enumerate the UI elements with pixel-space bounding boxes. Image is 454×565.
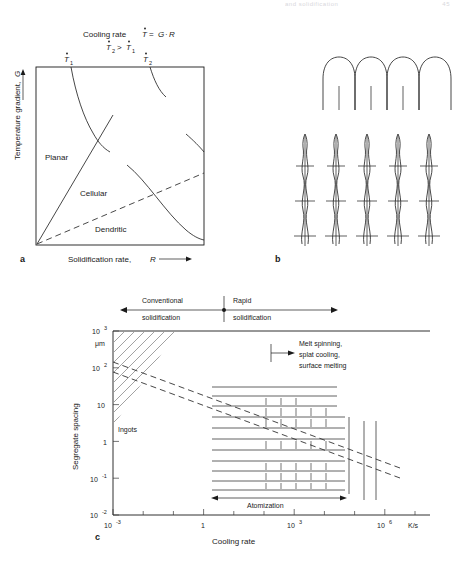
panel-a-curve-label-t1: T 1: [64, 53, 73, 66]
svg-text:2: 2: [104, 362, 107, 368]
panel-c: Conventional solidification Rapid solidi…: [71, 260, 430, 546]
chart-c-axes: [113, 331, 430, 515]
chart-c-x-ticks: 10 -3 1 10 3 10 6 K/s: [104, 509, 419, 529]
panel-b-cellular-structure: [323, 57, 451, 110]
svg-text:-1: -1: [102, 473, 107, 479]
chart-c-region-label-ingots: Ingots: [118, 426, 138, 434]
panel-a-cooling-rate-formula: T = G · R: [142, 28, 175, 39]
svg-text:10: 10: [90, 476, 98, 483]
svg-text:10: 10: [92, 328, 100, 335]
chart-c-y-tick-label-100: 10 2: [92, 362, 107, 372]
melt-spinning-line-2: splat cooling,: [299, 351, 340, 359]
chart-c-x-units: K/s: [408, 522, 419, 529]
svg-text:10: 10: [377, 522, 385, 529]
svg-text:T: T: [142, 30, 148, 39]
chart-c-atomization-vertical-ticks: [266, 398, 326, 489]
chart-c-x-axis-title: Cooling rate: [212, 537, 256, 546]
chart-c-x-tick-label-1e-3: 10 -3: [104, 519, 121, 529]
panel-a: Cooling rate T = G · R T 2 > T 1 T: [13, 28, 204, 264]
figure-root: and solidification 45 Cooling rate T = G…: [0, 0, 454, 565]
dendrite-column: [294, 134, 316, 246]
panel-a-region-label-planar: Planar: [45, 153, 68, 162]
panel-c-label: c: [95, 532, 100, 542]
chart-c-regime-conventional-line1: Conventional: [142, 297, 183, 304]
chart-c-regime-rapid-line2: solidification: [233, 314, 271, 321]
panel-a-y-axis-label: Temperature gradient,: [13, 82, 22, 160]
panel-a-cooling-rate-note: Cooling rate: [83, 30, 127, 39]
chart-c-regime-conventional-line2: solidification: [142, 314, 180, 321]
svg-text:G: G: [158, 30, 164, 39]
svg-text:3: 3: [299, 519, 302, 525]
panel-a-x-axis-symbol: R: [150, 255, 156, 264]
svg-text:=: =: [149, 30, 154, 39]
panel-b-label: b: [275, 254, 281, 264]
chart-c-y-tick-label-0-1: 10 -1: [90, 473, 107, 483]
svg-text:·: ·: [165, 30, 168, 39]
panel-a-label: a: [20, 254, 26, 264]
svg-text:3: 3: [104, 325, 107, 331]
panel-a-y-axis: Temperature gradient, G: [13, 71, 22, 160]
svg-text:2: 2: [112, 48, 115, 54]
svg-text:10: 10: [287, 522, 295, 529]
svg-text:10: 10: [104, 522, 112, 529]
svg-text:6: 6: [389, 519, 392, 525]
chart-c-y-ticks: 10 3 μm 10 2 10 1 10 -1 10 -2: [90, 325, 119, 519]
chart-c-atomization-span: Atomization: [211, 495, 347, 509]
svg-text:-2: -2: [102, 509, 107, 515]
chart-c-top-axis: Conventional solidification Rapid solidi…: [120, 296, 338, 322]
panel-b: b: [275, 57, 451, 264]
dendrite-column: [325, 134, 347, 246]
svg-text:1: 1: [132, 48, 135, 54]
panel-a-x-axis: Solidification rate, R: [68, 255, 192, 264]
panel-a-curve-t1: [71, 67, 110, 152]
panel-a-curve-right-upper: [186, 134, 204, 152]
dendrite-column: [418, 134, 440, 246]
panel-a-region-label-dendritic: Dendritic: [95, 225, 127, 234]
svg-text:10: 10: [92, 365, 100, 372]
chart-c-y-tick-label-1: 1: [103, 439, 107, 446]
chart-c-y-units: μm: [95, 340, 105, 348]
chart-c-annotation-melt-spinning: Melt spinning, splat cooling, surface me…: [271, 340, 347, 370]
svg-text:1: 1: [70, 60, 73, 66]
svg-text:R: R: [169, 30, 175, 39]
chart-c-y-tick-label-0-01: 10 -2: [90, 509, 107, 519]
chart-c-y-axis-title: Segregate spacing: [71, 403, 80, 470]
chart-c-y-tick-label-1000: 10 3: [92, 325, 107, 335]
melt-spinning-line-3: surface melting: [299, 362, 347, 370]
svg-text:2: 2: [149, 60, 152, 66]
svg-text:>: >: [117, 43, 122, 52]
chart-c-regime-rapid-line1: Rapid: [233, 297, 251, 305]
panel-a-curve-label-t2: T 2: [143, 53, 152, 66]
chart-c-band-lower: [113, 372, 400, 478]
chart-c-y-tick-label-10: 10: [97, 402, 105, 409]
chart-c-band-upper: [113, 362, 400, 468]
chart-c-x-tick-label-1: 1: [201, 522, 205, 529]
panel-b-dendritic-structure: [294, 134, 440, 246]
chart-c-annotation-atomization: Atomization: [247, 502, 284, 509]
dendrite-column: [356, 134, 378, 246]
chart-c-x-tick-label-1e6: 10 6: [377, 519, 392, 529]
panel-a-curve-t2: [150, 67, 166, 97]
panel-a-x-axis-label: Solidification rate,: [68, 255, 131, 264]
svg-text:10: 10: [90, 512, 98, 519]
melt-spinning-line-1: Melt spinning,: [299, 340, 342, 348]
chart-c-region-atomization-lines: [212, 387, 376, 500]
panel-a-cooling-rate-inequality: T 2 > T 1: [106, 41, 135, 54]
scientific-figure: Cooling rate T = G · R T 2 > T 1 T: [0, 0, 454, 565]
chart-c-x-tick-label-1e3: 10 3: [287, 519, 302, 529]
panel-a-y-axis-symbol: G: [13, 71, 22, 77]
dendrite-column: [387, 134, 409, 246]
svg-text:-3: -3: [116, 519, 121, 525]
panel-a-curve-cellular-dendritic: [127, 165, 204, 240]
panel-a-region-label-cellular: Cellular: [80, 189, 107, 198]
